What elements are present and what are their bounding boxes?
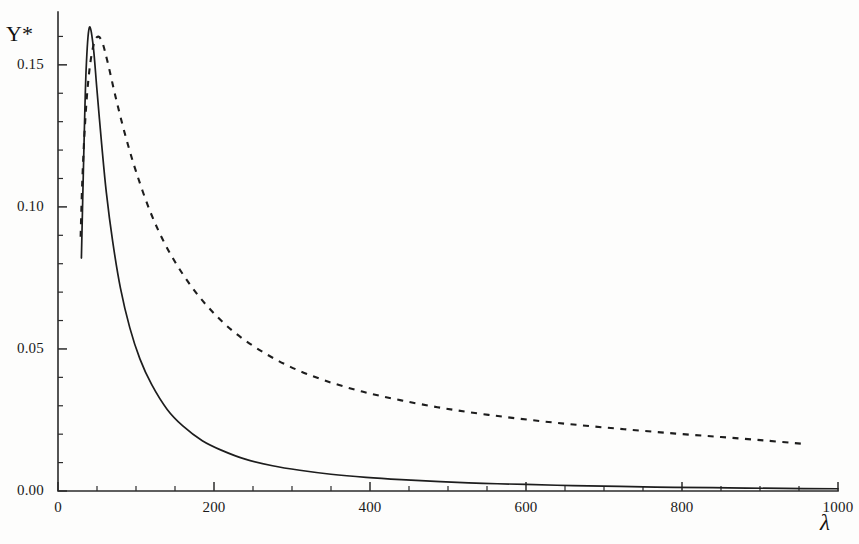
chart-figure: 0.000.050.100.15 02004006008001000 Y* λ: [0, 0, 859, 544]
x-tick-label: 800: [652, 499, 712, 516]
curve-solid: [81, 27, 838, 489]
x-tick-label: 1000: [808, 499, 859, 516]
x-tick-label: 600: [496, 499, 556, 516]
x-tick-label: 400: [340, 499, 400, 516]
plot-canvas: [0, 0, 859, 544]
y-tick-label: 0.00: [0, 482, 44, 499]
y-tick-label: 0.15: [0, 56, 44, 73]
y-tick-label: 0.05: [0, 340, 44, 357]
x-tick-label: 0: [28, 499, 88, 516]
data-series-group: [81, 27, 838, 489]
curve-dashed: [81, 37, 803, 444]
y-axis-title: Y*: [6, 21, 33, 47]
x-axis-title: λ: [820, 510, 830, 536]
y-tick-label: 0.10: [0, 198, 44, 215]
x-tick-label: 200: [184, 499, 244, 516]
